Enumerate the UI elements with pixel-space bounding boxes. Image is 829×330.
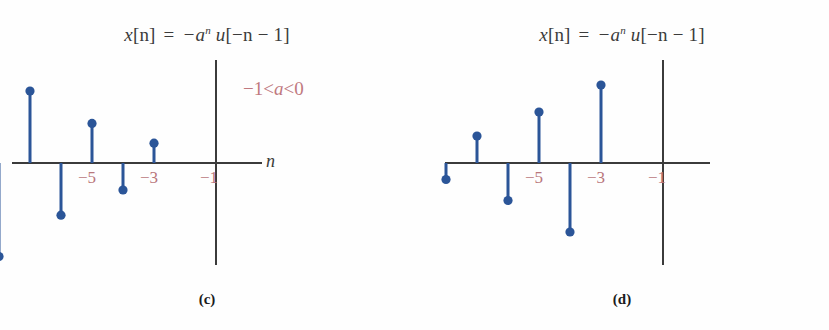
figure-sheet: x[n] = −an u[−n − 1] −1<a<0 −5 −3 −1 n (… bbox=[0, 0, 829, 330]
stem-marker bbox=[565, 227, 574, 236]
panel-c-tick-label-neg5: −5 bbox=[78, 168, 96, 188]
panel-d-stems bbox=[441, 80, 605, 236]
stem-marker bbox=[596, 80, 605, 89]
panel-d-tick-label-neg1: −1 bbox=[648, 168, 666, 188]
stem-marker bbox=[56, 211, 65, 220]
panel-d-tick-label-neg5: −5 bbox=[525, 168, 543, 188]
panel-c-axes bbox=[12, 60, 262, 265]
stem-marker bbox=[534, 107, 543, 116]
stem-marker bbox=[118, 185, 127, 194]
stem-marker bbox=[149, 139, 158, 148]
panel-d-axes bbox=[445, 60, 710, 265]
panel-c: x[n] = −an u[−n − 1] −1<a<0 −5 −3 −1 n (… bbox=[0, 0, 414, 330]
panel-d-label: (d) bbox=[415, 291, 829, 308]
panel-d: x[n] = −an u[−n − 1] a<−1 −5 −3 −1 n (d) bbox=[415, 0, 829, 330]
panel-d-tick-label-neg3: −3 bbox=[587, 168, 605, 188]
panel-c-stem-plot bbox=[0, 0, 414, 330]
panel-d-stem-plot bbox=[415, 0, 829, 330]
stem-marker bbox=[441, 175, 450, 184]
panel-c-axis-label-n: n bbox=[266, 151, 275, 172]
stem-marker bbox=[87, 119, 96, 128]
panel-c-tick-label-neg3: −3 bbox=[140, 168, 158, 188]
stem-marker bbox=[503, 196, 512, 205]
panel-c-tick-label-neg1: −1 bbox=[200, 168, 218, 188]
stem-marker bbox=[0, 252, 4, 261]
stem-marker bbox=[25, 86, 34, 95]
stem-marker bbox=[472, 131, 481, 140]
